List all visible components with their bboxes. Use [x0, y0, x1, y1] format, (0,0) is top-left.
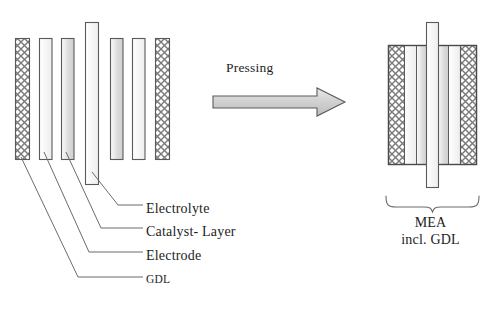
mea-layer-gdl-right [461, 46, 477, 165]
pressing-label: Pressing [226, 60, 273, 76]
layer-electrode-right [133, 39, 146, 160]
label-mea-line1: MEA [383, 215, 478, 231]
pressing-arrow [213, 88, 345, 116]
leader-gdl-line [21, 157, 143, 277]
label-mea-line2: incl. GDL [378, 232, 483, 248]
layer-electrolyte [86, 23, 99, 185]
layer-catalyst-left [62, 39, 75, 160]
leader-lines [21, 152, 143, 277]
layer-catalyst-right [111, 39, 124, 160]
label-electrolyte: Electrolyte [146, 201, 210, 217]
layer-electrode-left [40, 39, 53, 160]
layer-gdl-right [156, 39, 170, 160]
mea-layer-electrode-left [405, 46, 417, 165]
label-catalyst-layer: Catalyst- Layer [146, 224, 236, 240]
leader-electrolyte-line [92, 172, 143, 205]
label-gdl: GDL [146, 273, 170, 285]
pressed-mea-assembly [386, 23, 479, 213]
diagram-canvas [0, 0, 485, 312]
mea-layer-catalyst-right [438, 46, 449, 165]
mea-layer-gdl-left [389, 46, 405, 165]
exploded-layer-stack [16, 23, 170, 185]
mea-brace-icon [386, 196, 479, 212]
pressing-arrow-shape [213, 88, 345, 116]
mea-pressing-diagram [0, 0, 485, 312]
mea-layer-catalyst-left [417, 46, 428, 165]
mea-layer-electrode-right [449, 46, 461, 165]
leader-catalyst-layer-line [66, 152, 143, 228]
label-electrode: Electrode [146, 248, 201, 264]
mea-layer-electrolyte [427, 23, 439, 188]
layer-gdl-left [16, 39, 30, 160]
